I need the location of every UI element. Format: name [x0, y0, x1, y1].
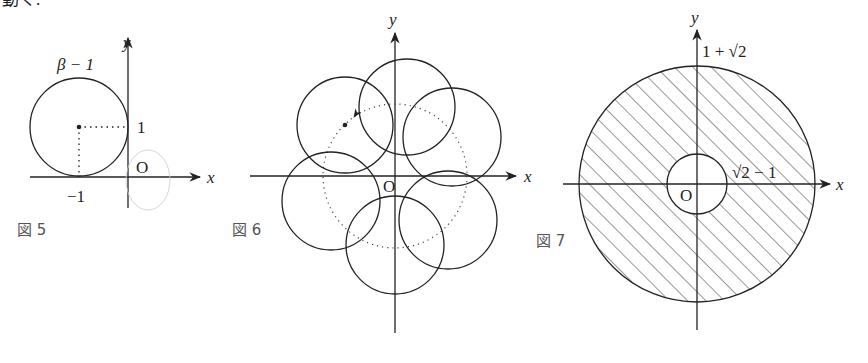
center-point — [343, 123, 348, 128]
y-axis-label: y — [121, 33, 131, 52]
header-fragment: 動く. — [2, 0, 40, 9]
x-axis-label: x — [206, 168, 215, 187]
figure-6: O x y 図 6 — [232, 10, 532, 333]
circle-label: β − 1 — [56, 55, 94, 74]
figure-caption: 図 5 — [17, 221, 46, 239]
figure-caption: 図 6 — [232, 221, 261, 239]
figure-5: β − 1 1 −1 O x y 図 5 — [17, 33, 215, 239]
x-axis-label: x — [523, 167, 532, 186]
figures-canvas: 動く. β − 1 1 −1 O x y 図 5 O x y 図 6 — [0, 0, 868, 363]
origin-label: O — [136, 158, 148, 177]
circle-lower-left — [282, 152, 380, 250]
outer-radius-label: 1 + √2 — [702, 42, 746, 61]
x-axis-label: x — [835, 175, 844, 194]
circle-top — [359, 59, 455, 155]
figure-caption: 図 7 — [536, 232, 565, 250]
figure-7: 1 + √2 √2 − 1 O x y 図 7 — [536, 8, 844, 330]
tick-x-label: −1 — [67, 187, 85, 206]
header-fragment-text: 動く. — [2, 0, 40, 9]
inner-radius-label: √2 − 1 — [732, 163, 776, 182]
hatched-annulus — [570, 60, 830, 310]
y-axis-label: y — [689, 8, 699, 27]
origin-label: O — [383, 177, 395, 196]
origin-label: O — [680, 186, 692, 205]
tick-y-label: 1 — [137, 118, 146, 137]
rotation-arrow-icon — [354, 105, 362, 117]
y-axis-label: y — [387, 10, 397, 29]
